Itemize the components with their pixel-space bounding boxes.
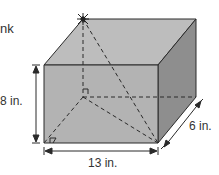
height-label: 8 in. <box>0 95 23 107</box>
width-label: 13 in. <box>88 157 117 169</box>
height-dimension <box>32 65 40 143</box>
prism-svg <box>0 0 219 175</box>
rectangular-prism-diagram: nk <box>0 0 219 175</box>
front-face <box>44 65 158 143</box>
depth-label: 6 in. <box>189 120 212 132</box>
spider-star-icon <box>77 13 89 25</box>
width-dimension <box>44 147 158 155</box>
